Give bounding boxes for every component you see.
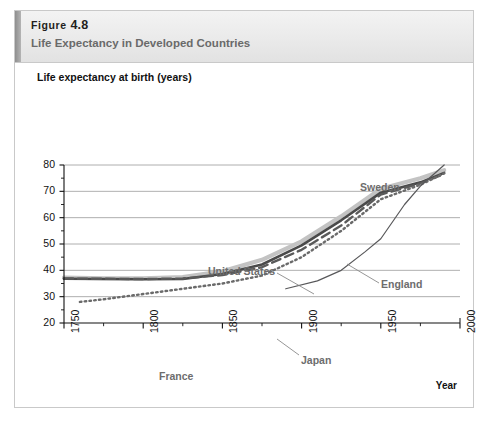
- chart-plot-region: Life expectancy at birth (years) Year 20…: [15, 63, 473, 408]
- y-tick-label: 40: [29, 263, 55, 275]
- figure-number-word: Figure: [31, 19, 67, 31]
- series-label-england: England: [381, 278, 422, 290]
- source-note: [16, 426, 196, 435]
- x-tick-label: 1950: [386, 310, 398, 333]
- figure-number-value: 4.8: [70, 18, 88, 32]
- figure-header: Figure 4.8 Life Expectancy in Developed …: [15, 11, 473, 63]
- series-label-japan: Japan: [301, 354, 331, 366]
- x-tick-label: 1850: [227, 310, 239, 333]
- y-tick-label: 70: [29, 184, 55, 196]
- series-label-france: France: [159, 370, 193, 382]
- figure-number: Figure 4.8: [31, 18, 88, 32]
- y-tick-label: 50: [29, 237, 55, 249]
- y-tick-label: 80: [29, 158, 55, 170]
- x-tick-label: 1800: [148, 310, 160, 333]
- header-accent-bar: [15, 11, 21, 62]
- y-tick-label: 60: [29, 211, 55, 223]
- figure-card: Figure 4.8 Life Expectancy in Developed …: [14, 10, 474, 408]
- annotation-leader-lines: [277, 264, 379, 355]
- y-tick-label: 20: [29, 316, 55, 328]
- x-tick-label: 1750: [69, 310, 81, 333]
- y-tick-label: 30: [29, 290, 55, 302]
- line-chart-svg: [15, 63, 473, 408]
- figure-caption: Life Expectancy in Developed Countries: [31, 37, 250, 49]
- series-label-sweden: Sweden: [360, 181, 400, 193]
- x-tick-label: 1900: [307, 310, 319, 333]
- leader-line-england: [347, 264, 379, 283]
- series-label-united-states: United States: [208, 265, 275, 277]
- leader-line-japan: [277, 339, 299, 355]
- x-tick-label: 2000: [465, 310, 477, 333]
